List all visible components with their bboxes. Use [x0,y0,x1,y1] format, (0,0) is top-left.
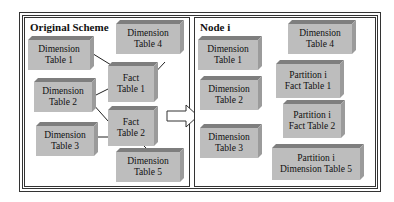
node-i-title: Node i [200,21,230,33]
right-partition-fact-table-2: Partition iFact Table 2 [283,100,345,138]
left-dimension-table-3: DimensionTable 3 [36,122,98,156]
box-label-line2: Table 1 [214,55,242,66]
box-label-line1: Dimension [208,132,250,143]
box-label-line2: Table 4 [306,39,334,50]
box-label-line2: Dimension Table 5 [280,164,352,175]
right-dimension-table-4: DimensionTable 4 [288,20,356,54]
box-label-line2: Table 3 [215,143,243,154]
box-label-line1: Dimension [127,28,169,39]
box-label-line2: Table 3 [51,141,79,152]
box-label-line2: Fact Table 2 [289,121,336,132]
box-label-line1: Dimension [42,86,84,97]
box-label-line1: Partition i [293,110,331,121]
left-dimension-table-4: DimensionTable 4 [116,20,184,54]
box-label-line2: Table 2 [215,95,243,106]
box-label-line1: Dimension [208,84,250,95]
box-label-line2: Table 2 [117,128,145,139]
right-dimension-table-3: DimensionTable 3 [200,124,262,158]
left-dimension-table-1: DimensionTable 1 [28,36,94,70]
box-label-line1: Partition i [297,153,335,164]
box-label-line1: Dimension [38,44,80,55]
box-label-line1: Dimension [207,44,249,55]
box-label-line2: Fact Table 1 [285,81,332,92]
box-label-line2: Table 2 [49,97,77,108]
left-dimension-table-2: DimensionTable 2 [34,78,96,112]
box-label-line1: Fact [123,117,139,128]
left-fact-table-1: FactTable 1 [108,62,158,102]
box-label-line1: Dimension [44,130,86,141]
box-label-line2: Table 5 [134,167,162,178]
box-label-line1: Dimension [127,156,169,167]
right-dimension-table-2: DimensionTable 2 [200,76,262,110]
left-fact-table-2: FactTable 2 [108,106,158,146]
right-partition-dimension-table-5: Partition iDimension Table 5 [272,144,364,180]
box-label-line2: Table 1 [117,84,145,95]
right-dimension-table-1: DimensionTable 1 [198,36,262,70]
box-label-line1: Dimension [299,28,341,39]
left-dimension-table-5: DimensionTable 5 [116,148,184,182]
box-label-line2: Table 4 [134,39,162,50]
box-label-line2: Table 1 [45,55,73,66]
box-label-line1: Fact [123,73,139,84]
box-label-line1: Partition i [289,70,327,81]
right-partition-fact-table-1: Partition iFact Table 1 [276,60,344,98]
